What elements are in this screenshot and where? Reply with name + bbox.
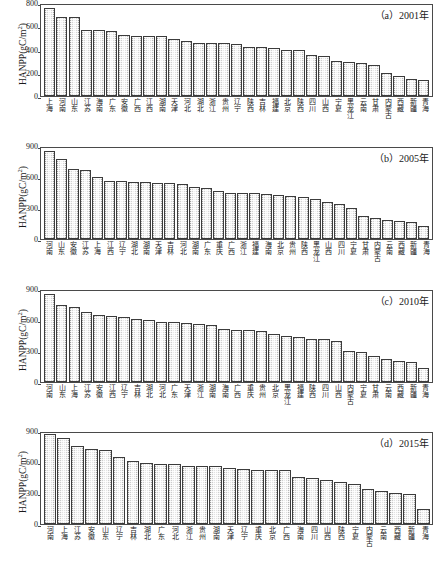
x-tick-label: 山东	[55, 384, 66, 428]
bar	[164, 183, 175, 238]
bar	[127, 461, 140, 524]
x-tick-label: 山西	[322, 241, 333, 285]
bar	[44, 294, 55, 381]
bar	[93, 315, 104, 381]
y-tick-label: 300	[26, 490, 38, 498]
x-tick-label: 福建	[268, 98, 279, 142]
x-tick-label: 甘肃	[359, 241, 370, 285]
bar	[92, 177, 103, 239]
bar	[118, 317, 129, 382]
x-tick-label: 江西	[105, 384, 116, 428]
x-tick-label: 湖北	[143, 384, 154, 428]
bar	[237, 469, 250, 524]
y-tick-label: 600	[26, 317, 38, 325]
x-tick-label: 北京	[268, 384, 279, 428]
bar	[298, 197, 309, 239]
figure-hanpp-by-province: HANPP(gC/m2) 0200400600800 （a）2001年 上海河南…	[0, 0, 439, 571]
x-tick-label: 江苏	[79, 241, 90, 285]
chart-panel-d: HANPP(gC/m2) 0300600900 （d）2015年 河南上海江苏安…	[0, 428, 439, 571]
x-tick-label: 广西	[231, 384, 242, 428]
bar	[406, 79, 417, 96]
x-tick-label: 山西	[319, 98, 330, 142]
bar	[156, 322, 167, 382]
panel-label-b: （b）2005年	[374, 150, 429, 165]
y-axis-tick	[38, 464, 42, 465]
bar	[56, 17, 67, 96]
bar	[44, 8, 55, 96]
bar	[403, 494, 416, 524]
bar	[393, 361, 404, 382]
x-tick-label: 云南	[376, 526, 389, 570]
x-tick-label: 新疆	[404, 526, 417, 570]
bar	[56, 305, 67, 382]
x-tick-label: 宁夏	[356, 384, 367, 428]
x-tick-label: 广东	[201, 241, 212, 285]
x-tick-label: 西藏	[394, 384, 405, 428]
y-axis-tick	[38, 28, 42, 29]
bar	[381, 73, 392, 96]
bar	[182, 466, 195, 525]
bar	[394, 221, 405, 239]
bar	[310, 199, 321, 239]
x-tick-label: 河北	[181, 98, 192, 142]
x-tick-label: 黑龙江	[344, 98, 355, 142]
x-tick-label: 江苏	[70, 526, 83, 570]
x-tick-label: 青海	[419, 241, 430, 285]
bar	[154, 464, 167, 525]
bar	[251, 470, 264, 525]
x-tick-labels-a: 上海河南山东江苏海南广东安徽广西江西湖南天津河北湖北浙江贵州辽宁陕西吉林福建北京…	[40, 98, 433, 142]
x-tick-label: 陕西	[298, 241, 309, 285]
y-axis-tick	[38, 75, 42, 76]
panel-label-d: （d）2015年	[374, 435, 429, 450]
bar	[406, 222, 417, 239]
x-tick-label: 山西	[331, 384, 342, 428]
x-tick-label: 吉林	[130, 384, 141, 428]
bar	[152, 183, 163, 239]
x-tick-label: 内蒙古	[381, 98, 392, 142]
x-tick-label: 陕西	[306, 384, 317, 428]
y-axis-tick	[38, 322, 42, 323]
bar	[343, 351, 354, 381]
bar	[99, 450, 112, 524]
x-tick-labels-b: 河南山东安徽江苏上海江西辽宁湖北湖南天津吉林河北湖南广东重庆广西浙江福建海南北京…	[40, 241, 433, 285]
y-tick-labels-d: 0300600900	[14, 428, 38, 526]
bar	[382, 220, 393, 239]
bar	[213, 191, 224, 238]
bar	[218, 329, 229, 382]
y-tick-label: 900	[26, 428, 38, 436]
x-tick-label: 黑龙江	[281, 384, 292, 428]
x-tick-label: 重庆	[251, 526, 264, 570]
bar	[140, 182, 151, 238]
bar	[56, 159, 67, 239]
y-tick-label: 400	[26, 47, 38, 55]
x-tick-label: 贵州	[286, 241, 297, 285]
x-tick-label: 河南	[55, 98, 66, 142]
x-tick-label: 浙江	[206, 98, 217, 142]
bar	[209, 466, 222, 524]
bar	[181, 41, 192, 96]
bar	[106, 316, 117, 382]
y-tick-label: 600	[26, 174, 38, 182]
x-tick-label: 福建	[293, 384, 304, 428]
y-tick-label: 600	[26, 23, 38, 31]
bar	[320, 480, 333, 524]
x-tick-label: 广东	[154, 526, 167, 570]
x-tick-label: 浙江	[237, 241, 248, 285]
x-tick-label: 新疆	[406, 98, 417, 142]
bar	[243, 330, 254, 381]
bar	[256, 331, 267, 382]
x-tick-label: 西藏	[395, 241, 406, 285]
x-tick-label: 吉林	[164, 241, 175, 285]
chart-panel-b: HANPP(gC/m2) 0300600900 （b）2005年 河南山东安徽江…	[0, 143, 439, 286]
bar	[334, 482, 347, 524]
bar	[356, 352, 367, 381]
x-tick-label: 辽宁	[112, 526, 125, 570]
x-tick-label: 广西	[225, 241, 236, 285]
x-tick-label: 海南	[293, 526, 306, 570]
bar	[343, 62, 354, 96]
chart-panel-c: HANPP(gC/m2) 0300600900 （c）2010年 河南山东上海江…	[0, 286, 439, 429]
bar	[418, 80, 429, 96]
x-tick-label: 河北	[155, 384, 166, 428]
bar	[131, 36, 142, 96]
x-tick-label: 北京	[281, 98, 292, 142]
